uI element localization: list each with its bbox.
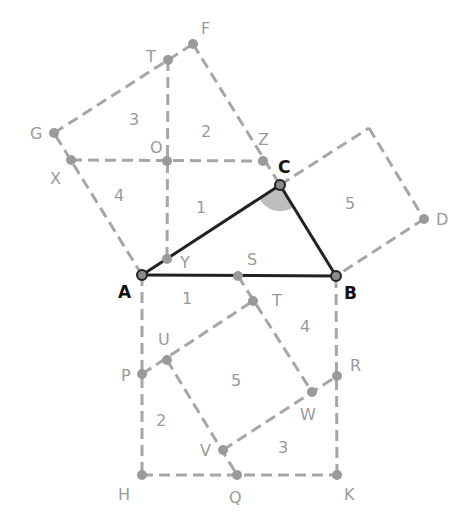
region-label: 5 xyxy=(345,194,355,213)
region-label: 1 xyxy=(196,198,206,217)
label-o: O xyxy=(150,138,163,157)
point-p xyxy=(137,369,147,379)
point-k xyxy=(332,470,342,480)
point-h xyxy=(137,470,147,480)
point-z xyxy=(258,156,268,166)
label-g: G xyxy=(30,124,42,143)
label-w: W xyxy=(300,405,316,424)
point-u xyxy=(162,355,172,365)
region-label: 1 xyxy=(182,289,192,308)
region-label: 5 xyxy=(231,371,241,390)
label-q: Q xyxy=(229,488,242,507)
region-label: 4 xyxy=(300,317,310,336)
point-a xyxy=(137,270,147,280)
points xyxy=(49,39,429,480)
point-y xyxy=(162,254,172,264)
point-v xyxy=(218,445,228,455)
region-label: 3 xyxy=(129,110,139,129)
label-a: A xyxy=(118,282,132,302)
point-s xyxy=(233,271,243,281)
triangle-abc xyxy=(142,185,336,276)
label-f: F xyxy=(201,19,210,38)
point-x xyxy=(66,155,76,165)
point-labels: A B C D F G T O X Z Y S T U P R W V H Q … xyxy=(30,19,448,507)
point-f xyxy=(188,39,198,49)
point-t-top xyxy=(163,55,173,65)
label-b: B xyxy=(344,283,357,303)
point-g xyxy=(49,128,59,138)
point-c xyxy=(275,180,285,190)
point-b xyxy=(331,271,341,281)
point-q xyxy=(232,470,242,480)
label-k: K xyxy=(344,485,355,504)
label-t-top: T xyxy=(145,47,156,66)
region-label: 2 xyxy=(201,122,211,141)
label-r: R xyxy=(350,356,361,375)
region-label: 3 xyxy=(278,438,288,457)
label-c: C xyxy=(278,157,290,177)
label-x: X xyxy=(50,169,61,188)
label-z: Z xyxy=(258,130,269,149)
point-r xyxy=(332,371,342,381)
label-h: H xyxy=(118,485,130,504)
label-y: Y xyxy=(179,253,190,272)
label-v: V xyxy=(200,441,211,460)
point-d xyxy=(419,214,429,224)
region-label: 2 xyxy=(156,411,166,430)
label-u: U xyxy=(158,330,170,349)
label-s: S xyxy=(247,250,257,269)
label-t-bottom: T xyxy=(271,291,282,310)
point-w xyxy=(307,387,317,397)
label-p: P xyxy=(121,366,131,385)
label-d: D xyxy=(436,210,448,229)
point-o xyxy=(162,156,172,166)
point-t-bottom xyxy=(248,296,258,306)
region-label: 4 xyxy=(114,186,124,205)
pythagorean-dissection-diagram: A B C D F G T O X Z Y S T U P R W V H Q … xyxy=(0,0,476,529)
